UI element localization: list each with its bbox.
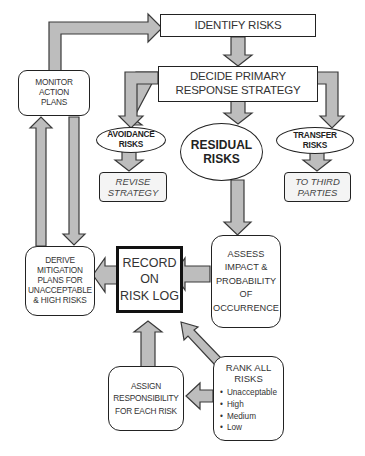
arrow-identify-to-decide [224, 37, 252, 66]
assign-line3: FOR EACH RISK [115, 405, 177, 417]
risk-level-unacceptable: Unacceptable [220, 387, 283, 399]
revise-line2: STRATEGY [108, 187, 159, 198]
record-risk-log-box: RECORD ON RISK LOG [116, 246, 183, 313]
record-line3: RISK LOG [120, 288, 179, 304]
third-parties-box: TO THIRD PARTIES [284, 172, 351, 202]
arrow-transfer-to-third [303, 152, 331, 171]
assess-line5: OCCURRENCE [213, 302, 279, 315]
arrow-assign-to-record [134, 321, 162, 367]
residual-line2: RISKS [203, 152, 240, 166]
residual-risks-ellipse: RESIDUAL RISKS [180, 123, 263, 181]
decide-strategy-box: DECIDE PRIMARY RESPONSE STRATEGY [158, 66, 318, 102]
record-line1: RECORD [122, 255, 176, 271]
identify-risks-box: IDENTIFY RISKS [160, 14, 316, 37]
third-line2: PARTIES [298, 187, 338, 198]
record-line2: ON [140, 271, 159, 287]
transfer-line1: TRANSFER [293, 131, 337, 141]
rank-all-risks-box: RANK ALL RISKS Unacceptable High Medium … [213, 356, 284, 441]
risk-level-medium: Medium [220, 411, 283, 423]
assign-line2: RESPONSIBILITY [113, 392, 178, 404]
residual-line1: RESIDUAL [191, 138, 252, 152]
arrow-decide-to-transfer [317, 72, 344, 128]
decide-label-line1: DECIDE PRIMARY [190, 70, 286, 84]
assess-line2: IMPACT & [225, 261, 268, 274]
identify-label: IDENTIFY RISKS [194, 19, 281, 33]
avoidance-risks-ellipse: AVOIDANCE RISKS [96, 127, 166, 153]
risk-levels-list: Unacceptable High Medium Low [214, 387, 283, 435]
revise-line1: REVISE [116, 176, 151, 187]
arrow-monitor-to-identify [49, 14, 162, 72]
risk-level-low: Low [220, 422, 283, 434]
transfer-line2: RISKS [303, 141, 327, 151]
arrow-residual-to-assess [224, 180, 251, 235]
assess-impact-box: ASSESS IMPACT & PROBABILITY OF OCCURRENC… [211, 235, 281, 328]
arrow-rank-to-assign [186, 383, 213, 409]
decide-label-line2: RESPONSE STRATEGY [176, 84, 301, 98]
transfer-risks-ellipse: TRANSFER RISKS [276, 127, 354, 154]
avoidance-line2: RISKS [119, 140, 143, 150]
assess-line1: ASSESS [228, 248, 265, 261]
arrow-decide-to-residual [224, 101, 252, 124]
arrow-rank-to-record [181, 322, 221, 365]
risk-level-high: High [220, 399, 283, 411]
rank-line1: RANK ALL [226, 362, 271, 373]
assess-line4: OF [240, 288, 253, 301]
arrow-record-to-derive [93, 258, 117, 292]
arrow-derive-to-monitor [30, 117, 52, 246]
assign-line1: ASSIGN [131, 380, 161, 392]
revise-strategy-box: REVISE STRATEGY [99, 172, 167, 202]
derive-mitigation-box: DERIVE MITIGATION PLANS FOR UNACCEPTABLE… [25, 246, 95, 316]
monitor-line3: PLANS [41, 98, 67, 108]
third-line1: TO THIRD [295, 176, 340, 187]
derive-line5: & HIGH RISKS [33, 296, 86, 306]
assign-responsibility-box: ASSIGN RESPONSIBILITY FOR EACH RISK [108, 366, 184, 431]
arrow-monitor-to-derive [63, 117, 85, 245]
rank-line2: RISKS [234, 373, 263, 384]
arrow-avoidance-to-revise [115, 150, 143, 171]
assess-line3: PROBABILITY [216, 275, 276, 288]
monitor-action-plans-box: MONITOR ACTION PLANS [18, 70, 90, 116]
